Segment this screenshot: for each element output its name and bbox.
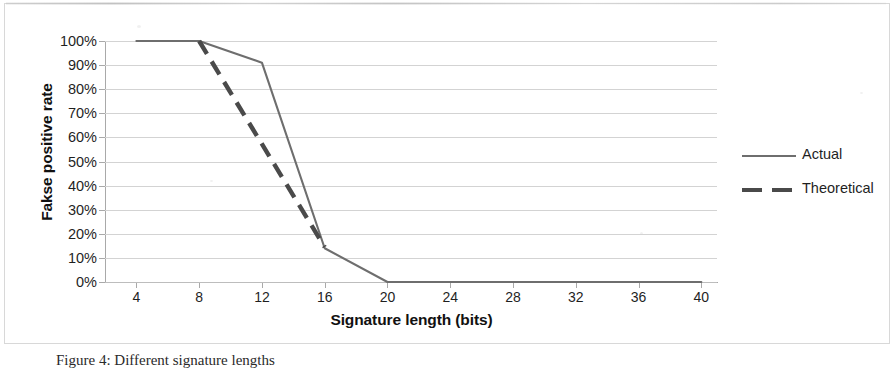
- y-axis-tick: [99, 186, 105, 187]
- y-axis-tick-label: 90%: [49, 58, 97, 72]
- x-axis-tick-label: 40: [681, 289, 721, 305]
- x-axis-tick: [199, 283, 200, 288]
- y-axis-tick: [99, 258, 105, 259]
- x-axis-tick-label: 16: [305, 289, 345, 305]
- y-axis-tick-label: 0%: [49, 275, 97, 289]
- y-axis-tick: [99, 41, 105, 42]
- plot-area: [105, 41, 717, 282]
- legend-label-actual: Actual: [802, 146, 842, 162]
- x-axis-tick-label: 36: [619, 289, 659, 305]
- legend-swatch-dashed-icon: [742, 188, 796, 192]
- x-axis-tick: [325, 283, 326, 288]
- x-axis-tick-label: 4: [116, 289, 156, 305]
- x-axis-title: Signature length (bits): [105, 311, 718, 329]
- y-axis-tick-label: 50%: [49, 155, 97, 169]
- y-axis-tick-label: 60%: [49, 130, 97, 144]
- y-axis-tick-label: 10%: [49, 251, 97, 265]
- x-axis-tick: [513, 283, 514, 288]
- x-axis-tick-label: 12: [242, 289, 282, 305]
- x-axis-tick: [262, 283, 263, 288]
- series-svg: [105, 41, 717, 282]
- x-axis-tick: [576, 283, 577, 288]
- x-axis-tick-label: 20: [367, 289, 407, 305]
- y-axis-tick-label: 80%: [49, 82, 97, 96]
- series-line-theoretical: [199, 41, 325, 247]
- x-axis-tick: [450, 283, 451, 288]
- y-axis-tick: [99, 282, 105, 283]
- y-axis-tick: [99, 65, 105, 66]
- x-axis-tick: [701, 283, 702, 288]
- figure-caption: Figure 4: Different signature lengths: [56, 352, 275, 369]
- y-axis-tick-label: 40%: [49, 179, 97, 193]
- y-axis-tick-labels: 0%10%20%30%40%50%60%70%80%90%100%: [45, 0, 97, 341]
- y-axis-tick-label: 20%: [49, 227, 97, 241]
- legend-item-actual: Actual: [742, 143, 892, 177]
- x-axis-tick-label: 28: [493, 289, 533, 305]
- x-axis-tick-label: 24: [430, 289, 470, 305]
- x-axis-tick: [639, 283, 640, 288]
- x-axis-tick: [387, 283, 388, 288]
- x-axis-tick-label: 32: [556, 289, 596, 305]
- y-axis-tick: [99, 162, 105, 163]
- y-axis-tick-label: 70%: [49, 106, 97, 120]
- y-axis-tick-label: 30%: [49, 203, 97, 217]
- y-axis-tick: [99, 210, 105, 211]
- paper-speckle: [137, 25, 141, 28]
- x-axis-tick: [136, 283, 137, 288]
- y-axis-tick: [99, 137, 105, 138]
- y-axis-tick-label: 100%: [49, 34, 97, 48]
- legend-label-theoretical: Theoretical: [802, 180, 874, 196]
- y-axis-tick: [99, 113, 105, 114]
- y-axis-tick: [99, 234, 105, 235]
- paper-speckle: [860, 92, 863, 94]
- legend-item-theoretical: Theoretical: [742, 177, 892, 211]
- series-line-actual: [136, 41, 701, 282]
- y-axis-tick: [99, 89, 105, 90]
- scan-noise-band: [6, 2, 886, 5]
- legend-swatch-solid-icon: [742, 155, 796, 157]
- chart-legend: Actual Theoretical: [742, 143, 892, 211]
- x-axis-tick-label: 8: [179, 289, 219, 305]
